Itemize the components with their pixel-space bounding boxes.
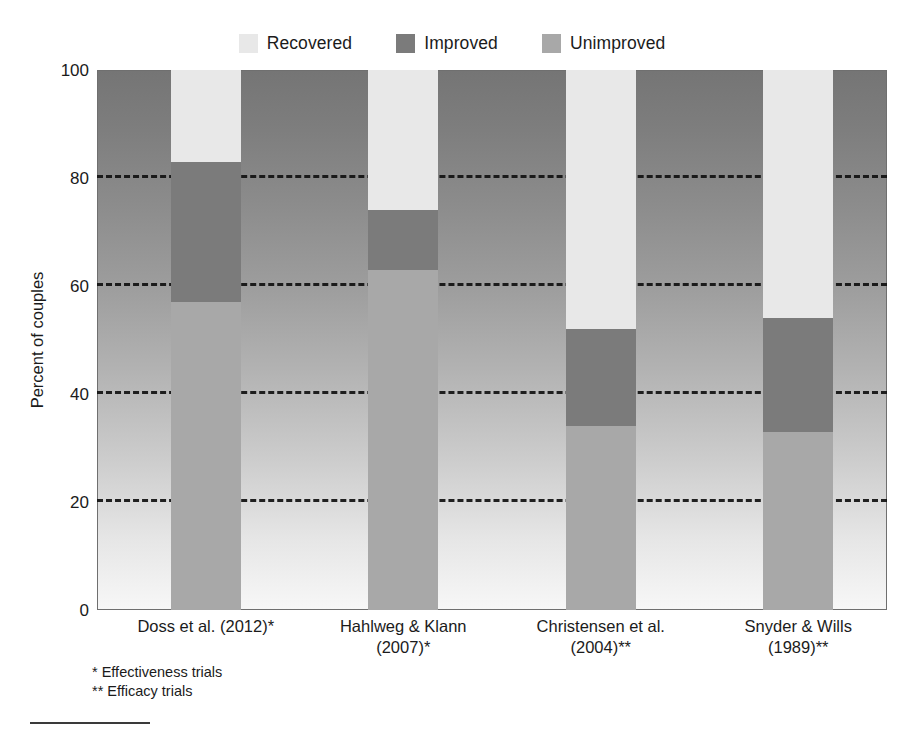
x-axis-label-line: (2007)* — [298, 637, 508, 658]
x-axis-label-line: Christensen et al. — [496, 616, 706, 637]
y-axis-tick-label: 100 — [45, 62, 89, 79]
legend-entry-unimproved: Unimproved — [542, 33, 665, 54]
x-axis-label-line: Doss et al. (2012)* — [101, 616, 311, 637]
plot-area: 020406080100 — [97, 70, 887, 610]
bar-stack — [171, 70, 241, 610]
footnote-effectiveness: * Effectiveness trials — [92, 663, 222, 682]
page-rule — [30, 722, 150, 724]
y-axis-tick-label: 80 — [45, 170, 89, 187]
legend-label-unimproved: Unimproved — [570, 33, 665, 54]
chart-footnotes: * Effectiveness trials ** Efficacy trial… — [92, 663, 222, 701]
x-axis-label: Doss et al. (2012)* — [101, 616, 311, 637]
x-axis-label: Hahlweg & Klann(2007)* — [298, 616, 508, 658]
legend-swatch-unimproved — [542, 34, 561, 53]
y-axis-tick-label: 20 — [45, 494, 89, 511]
bar-segment-recovered — [368, 70, 438, 210]
bar-segment-recovered — [763, 70, 833, 318]
bar-segment-improved — [566, 329, 636, 426]
bar-segment-unimproved — [763, 432, 833, 610]
legend-swatch-recovered — [239, 34, 258, 53]
y-axis-tick-label: 60 — [45, 278, 89, 295]
bar-segment-improved — [368, 210, 438, 269]
bar-segment-unimproved — [566, 426, 636, 610]
legend-label-recovered: Recovered — [267, 33, 353, 54]
y-axis-tick-label: 40 — [45, 386, 89, 403]
bar-segment-recovered — [171, 70, 241, 162]
bar-segment-recovered — [566, 70, 636, 329]
legend-entry-improved: Improved — [396, 33, 498, 54]
footnote-efficacy: ** Efficacy trials — [92, 682, 222, 701]
chart-legend: Recovered Improved Unimproved — [0, 33, 904, 54]
bar-segment-improved — [171, 162, 241, 302]
bar-segment-improved — [763, 318, 833, 431]
bar-stack — [763, 70, 833, 610]
x-axis-label-line: (1989)** — [693, 637, 903, 658]
y-axis-title: Percent of couples — [22, 70, 52, 610]
x-axis-label: Christensen et al.(2004)** — [496, 616, 706, 658]
x-axis-label: Snyder & Wills(1989)** — [693, 616, 903, 658]
chart-figure: Recovered Improved Unimproved Percent of… — [0, 0, 904, 733]
x-axis-label-line: Hahlweg & Klann — [298, 616, 508, 637]
legend-entry-recovered: Recovered — [239, 33, 353, 54]
legend-swatch-improved — [396, 34, 415, 53]
x-axis-label-line: (2004)** — [496, 637, 706, 658]
bar-stack — [566, 70, 636, 610]
bar-segment-unimproved — [368, 270, 438, 610]
legend-label-improved: Improved — [424, 33, 498, 54]
bar-stack — [368, 70, 438, 610]
y-axis-tick-label: 0 — [45, 602, 89, 619]
bar-segment-unimproved — [171, 302, 241, 610]
x-axis-label-line: Snyder & Wills — [693, 616, 903, 637]
